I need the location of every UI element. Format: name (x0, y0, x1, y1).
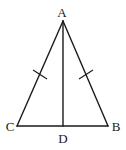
label-d: D (58, 131, 67, 146)
segment-ab (63, 21, 108, 126)
equal-tick-ac (33, 70, 47, 79)
triangle-diagram: A C B D (0, 0, 126, 150)
segment-ac (17, 21, 63, 126)
label-c: C (6, 119, 15, 134)
label-a: A (57, 5, 67, 20)
label-b: B (112, 119, 121, 134)
equal-tick-ab (79, 70, 93, 79)
